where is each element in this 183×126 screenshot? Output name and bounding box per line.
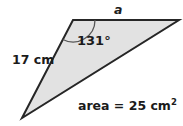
label-angle-131: 131° <box>77 34 111 47</box>
label-side-17cm: 17 cm <box>12 54 54 67</box>
label-side-a: a <box>114 4 122 17</box>
geometry-figure: a 17 cm 131° area = 25 cm2 <box>0 0 183 126</box>
label-area: area = 25 cm2 <box>78 100 177 113</box>
label-area-exponent: 2 <box>171 97 177 107</box>
label-area-text: area = 25 cm <box>78 98 171 113</box>
